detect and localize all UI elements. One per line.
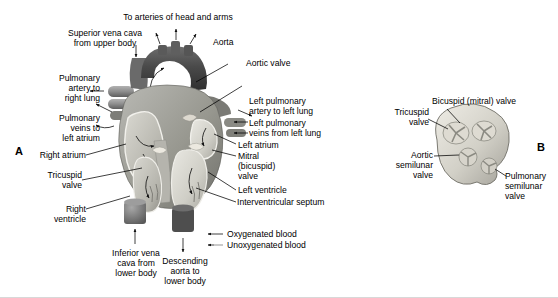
label-interventricular-septum: Interventricular septum — [237, 197, 324, 207]
label-mitral-valve: Mitral (bicuspid) valve — [238, 151, 275, 182]
legend-markers — [208, 234, 223, 245]
leader-right-ventricle — [86, 196, 130, 209]
label-pulmonary-artery-right-lung: Pulmonary artery to right lung — [12, 73, 100, 104]
label-tricuspid-valve: Tricuspid valve — [14, 170, 82, 190]
label-superior-vena-cava: Superior vena cava from upper body — [46, 28, 164, 48]
label-b-aortic-semilunar-valve: Aortic semilunar valve — [375, 150, 433, 181]
label-aortic-valve: Aortic valve — [246, 58, 290, 68]
label-b-bicuspid-valve: Bicuspid (mitral) valve — [432, 96, 516, 106]
legend-label-oxygenated: Oxygenated blood — [227, 229, 297, 239]
label-aorta: Aorta — [213, 37, 234, 47]
panel-b-valve-illustration — [436, 104, 510, 185]
label-b-tricuspid-valve: Tricuspid valve — [381, 107, 429, 127]
label-b-pulmonary-semilunar-valve: Pulmonary semilunar valve — [505, 171, 546, 202]
label-pulmonary-veins-left-atrium: Pulmonary veins to left atrium — [6, 113, 100, 144]
label-to-arteries-head-arms: To arteries of head and arms — [88, 12, 268, 22]
inferior-vena-cava — [124, 198, 146, 224]
label-left-ventricle: Left ventricle — [238, 185, 287, 195]
panel-letter-b: B — [537, 141, 545, 153]
arrow-head-arms-right — [190, 34, 196, 44]
legend-label-unoxygenated: Unoxygenated blood — [227, 240, 306, 250]
label-right-ventricle: Right ventricle — [18, 204, 86, 224]
panel-letter-a: A — [15, 145, 23, 157]
panel-a-heart-illustration — [108, 41, 246, 232]
label-left-pulmonary-artery: Left pulmonary artery to left lung — [249, 96, 313, 116]
heart-anatomy-figure: To arteries of head and arms Superior ve… — [0, 0, 558, 298]
label-left-pulmonary-veins: Left pulmonary veins from left lung — [249, 118, 321, 138]
label-left-atrium: Left atrium — [238, 140, 279, 150]
descending-aorta — [172, 204, 194, 232]
label-descending-aorta: Descending aorta to lower body — [140, 256, 230, 287]
